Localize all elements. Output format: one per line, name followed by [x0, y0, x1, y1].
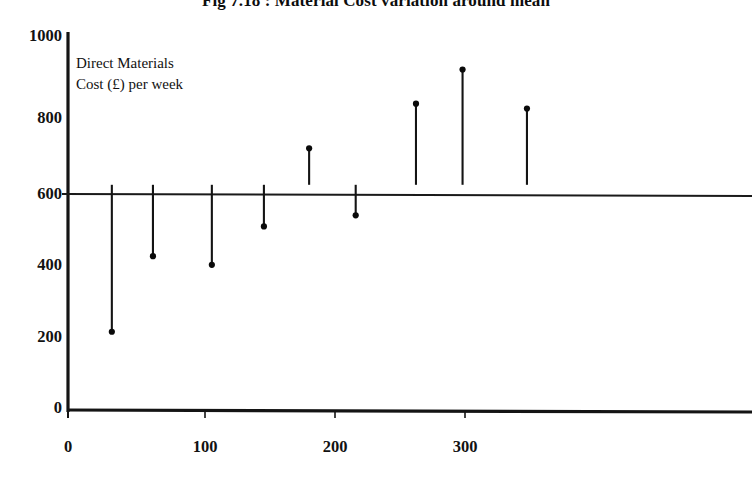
- data-point-markers-group: [109, 66, 530, 334]
- data-point-marker[interactable]: [306, 145, 312, 151]
- stem-lines-group: [112, 69, 527, 331]
- x-tick-label-200: 200: [323, 437, 348, 457]
- data-point-marker[interactable]: [353, 212, 359, 218]
- plot-area: [0, 0, 752, 485]
- data-point-marker[interactable]: [109, 329, 115, 335]
- data-point-marker[interactable]: [209, 262, 215, 268]
- mean-reference-line: [62, 194, 752, 196]
- data-point-marker[interactable]: [150, 253, 156, 259]
- x-tick-label-300: 300: [453, 437, 478, 457]
- x-tick-label-0: 0: [64, 437, 72, 457]
- x-axis-line: [67, 410, 752, 412]
- figure-container: Fig 7.18 : Material Cost variation aroun…: [0, 0, 752, 485]
- data-point-marker[interactable]: [459, 66, 465, 72]
- data-point-marker[interactable]: [524, 105, 530, 111]
- data-point-marker[interactable]: [261, 223, 267, 229]
- axes-group: [62, 32, 752, 418]
- data-point-marker[interactable]: [413, 101, 419, 107]
- x-tick-label-100: 100: [193, 437, 218, 457]
